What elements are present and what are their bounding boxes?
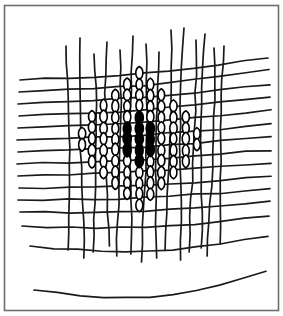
knit-loop [182, 155, 189, 168]
knit-loop [170, 133, 177, 145]
knit-loop [147, 188, 154, 200]
knit-loop [170, 166, 177, 179]
knit-loop [136, 199, 143, 212]
knit-loop [79, 138, 86, 151]
knit-loop [89, 155, 96, 168]
knit-loop-filled [124, 144, 131, 157]
knit-loop [158, 177, 165, 190]
knit-loop [112, 177, 119, 190]
knit-loop [158, 132, 165, 144]
knit-loop-filled [147, 144, 154, 157]
knit-loop [112, 143, 119, 156]
knit-loop [136, 66, 143, 79]
knit-loop [124, 89, 131, 101]
mesh-fabric-diagram: Woven mesh fabric with central knitted d… [0, 0, 283, 316]
knit-loop [158, 154, 165, 166]
knit-loop [136, 99, 143, 111]
knit-loop [194, 138, 201, 150]
knit-loop [89, 132, 96, 144]
knit-loop [100, 166, 107, 178]
knit-loop [124, 187, 131, 199]
knit-loop [100, 110, 107, 123]
figure-root: Woven mesh fabric with central knitted d… [0, 0, 283, 316]
knit-loop [170, 100, 177, 112]
knit-loop [158, 89, 165, 101]
knit-loop-filled [136, 154, 143, 167]
knit-loop [182, 132, 189, 145]
